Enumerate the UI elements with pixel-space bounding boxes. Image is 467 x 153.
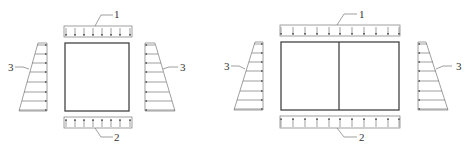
right-pressure-diagram: 3 bbox=[145, 43, 186, 111]
box-section bbox=[65, 43, 129, 111]
bottom-load-band: 2 bbox=[64, 117, 132, 143]
double-cell-figure: 1 2 bbox=[224, 8, 462, 143]
right-pressure-diagram-2: 3 bbox=[418, 42, 462, 110]
left-pressure-diagram: 3 bbox=[8, 43, 47, 111]
label-top-load: 1 bbox=[114, 8, 120, 20]
label-right-pressure-2: 3 bbox=[456, 60, 462, 72]
top-load-band-2: 1 bbox=[280, 8, 400, 36]
diagram-canvas: 1 2 bbox=[0, 0, 467, 153]
label-left-pressure: 3 bbox=[8, 61, 14, 73]
single-cell-figure: 1 2 bbox=[8, 8, 186, 143]
bottom-load-band-2: 2 bbox=[280, 116, 400, 143]
label-bottom-load-2: 2 bbox=[359, 131, 365, 143]
double-box-section bbox=[281, 42, 399, 110]
label-top-load-2: 1 bbox=[359, 8, 365, 20]
top-load-band: 1 bbox=[64, 8, 132, 37]
label-left-pressure-2: 3 bbox=[224, 60, 230, 72]
left-pressure-diagram-2: 3 bbox=[224, 42, 263, 110]
label-right-pressure: 3 bbox=[180, 61, 186, 73]
label-bottom-load: 2 bbox=[114, 131, 120, 143]
